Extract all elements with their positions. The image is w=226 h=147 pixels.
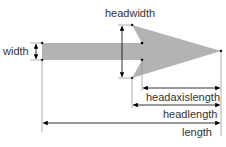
- headlength-label: headlength: [163, 108, 217, 120]
- headwidth-label: headwidth: [105, 7, 155, 19]
- length-label: length: [182, 126, 212, 138]
- arrow-diagram: width headwidth headaxislength headlengt…: [0, 0, 226, 147]
- headaxislength-label: headaxislength: [146, 91, 220, 103]
- width-label: width: [2, 45, 29, 57]
- arrow-shape: [42, 25, 221, 78]
